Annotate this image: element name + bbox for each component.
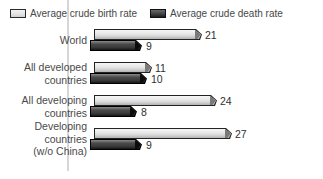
legend-swatch-death-rate-icon (150, 9, 166, 18)
death-rate-value-label: 9 (146, 40, 152, 52)
birth-rate-bar (94, 128, 232, 139)
birth-rate-bar-face (95, 63, 151, 72)
birth-rate-bar-tip (225, 129, 231, 138)
category-label: World (0, 34, 87, 47)
death-rate-bar-tip (135, 140, 141, 149)
legend-swatch-birth-rate-icon (10, 9, 26, 18)
category-label: All developed countries (0, 61, 87, 86)
death-rate-bar (90, 40, 142, 51)
legend-label-birth-rate: Average crude birth rate (30, 8, 137, 19)
birth-rate-bar (94, 29, 202, 40)
death-rate-value-label: 10 (151, 73, 163, 85)
death-rate-bar-tip (140, 74, 146, 83)
bar-chart-figure: Average crude birth rate Average crude d… (0, 0, 323, 179)
birth-rate-bar-tip (195, 30, 201, 39)
death-rate-bar-face (91, 41, 141, 50)
birth-rate-value-label: 27 (235, 128, 247, 140)
birth-rate-bar-tip (210, 96, 216, 105)
chart-legend: Average crude birth rate Average crude d… (10, 7, 283, 19)
death-rate-bar-tip (135, 41, 141, 50)
birth-rate-value-label: 24 (220, 95, 232, 107)
birth-rate-bar (94, 95, 217, 106)
birth-rate-value-label: 21 (205, 29, 217, 41)
bar-chart-plot-area: World219All developed countries1110All d… (0, 0, 323, 179)
death-rate-bar (90, 139, 142, 150)
death-rate-bar-tip (130, 107, 136, 116)
birth-rate-bar-face (95, 96, 216, 105)
death-rate-bar (90, 106, 137, 117)
death-rate-bar-face (91, 74, 146, 83)
death-rate-bar (90, 73, 147, 84)
death-rate-bar-face (91, 140, 141, 149)
death-rate-value-label: 8 (141, 106, 147, 118)
death-rate-value-label: 9 (146, 139, 152, 151)
category-label: All developing countries (0, 94, 87, 119)
birth-rate-bar-tip (145, 63, 151, 72)
birth-rate-bar-face (95, 129, 231, 138)
birth-rate-bar-face (95, 30, 201, 39)
death-rate-bar-face (91, 107, 136, 116)
legend-label-death-rate: Average crude death rate (170, 8, 283, 19)
birth-rate-bar (94, 62, 152, 73)
category-label: Developing countries (w/o China) (0, 120, 87, 158)
